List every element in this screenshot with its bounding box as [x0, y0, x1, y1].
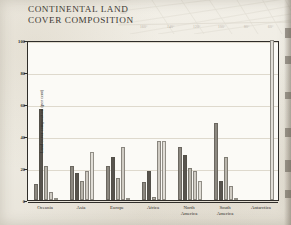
bar-series-4-3 [157, 141, 161, 200]
bar-series-5-3 [162, 141, 166, 200]
x-label-north-america: North America [181, 205, 198, 216]
bar-series-2-1 [75, 173, 79, 200]
bar-group-oceania [28, 42, 64, 200]
graticule-label-60: 60° [268, 25, 274, 29]
x-label-europe: Europe [110, 205, 124, 211]
x-label-south-america: South America [217, 205, 234, 216]
graticule-label-120: 120° [193, 25, 201, 29]
bar-series-4-2 [121, 147, 125, 200]
bar-series-1-4 [178, 147, 182, 200]
bar-chart [27, 41, 279, 201]
bar-series-1-3 [142, 182, 146, 200]
y-tick-mark-60 [24, 105, 27, 106]
page-title: CONTINENTAL LAND COVER COMPOSITION [28, 4, 178, 26]
x-axis-labels: OceaniaAsiaEuropeAfricaNorth AmericaSout… [27, 203, 279, 223]
bar-series-3-5 [224, 157, 228, 200]
y-axis-title: Land cover composition (per cent) [39, 47, 44, 197]
bar-series-5-0 [54, 198, 58, 200]
bar-group-asia [64, 42, 100, 200]
x-label-antarctica: Antarctica [251, 205, 271, 211]
bar-series-3-2 [116, 178, 120, 200]
x-label-asia: Asia [77, 205, 86, 211]
y-tick-mark-80 [24, 73, 27, 74]
bar-series-1-0 [34, 184, 38, 200]
bar-group-north-america [172, 42, 208, 200]
bar-series-1-2 [106, 166, 110, 200]
bar-series-1-5 [214, 123, 218, 200]
x-label-oceania: Oceania [37, 205, 53, 211]
page-title-line1: CONTINENTAL LAND [28, 4, 178, 15]
scanned-page: 180° 160° 140° 120° 100° 80° 60° CONTINE… [0, 0, 291, 225]
x-label-africa: Africa [147, 205, 159, 211]
graticule-label-100: 100° [218, 25, 226, 29]
bar-series-5-1 [90, 152, 94, 200]
bar-series-5-4 [198, 181, 202, 200]
bar-series-2-5 [219, 181, 223, 200]
y-tick-mark-100 [24, 41, 27, 42]
bar-series-3-4 [188, 168, 192, 200]
bar-group-africa [136, 42, 172, 200]
bar-group-south-america [208, 42, 244, 200]
bar-series-2-3 [147, 171, 151, 200]
y-tick-mark-40 [24, 137, 27, 138]
graticule-label-80: 80° [244, 25, 250, 29]
page-right-edge [284, 0, 291, 225]
bar-series-5-5 [234, 198, 238, 200]
bar-series-3-1 [80, 181, 84, 200]
page-title-line2: COVER COMPOSITION [28, 15, 178, 26]
bar-series-2-2 [111, 157, 115, 200]
bar-series-4-0 [49, 192, 53, 200]
bar-series-4-5 [229, 186, 233, 200]
bar-series-4-1 [85, 171, 89, 200]
bar-series-5-6 [270, 40, 274, 200]
y-tick-mark-0 [24, 201, 27, 202]
bar-groups [28, 42, 278, 200]
bar-series-5-2 [126, 198, 130, 200]
bar-group-europe [100, 42, 136, 200]
bar-series-2-4 [183, 155, 187, 200]
bar-series-1-1 [70, 166, 74, 200]
bar-series-3-3 [152, 197, 156, 200]
page-edge-marks [284, 0, 291, 225]
bar-series-4-4 [193, 171, 197, 200]
y-tick-mark-20 [24, 169, 27, 170]
bar-group-antarctica [244, 42, 280, 200]
bar-series-3-0 [44, 166, 48, 200]
